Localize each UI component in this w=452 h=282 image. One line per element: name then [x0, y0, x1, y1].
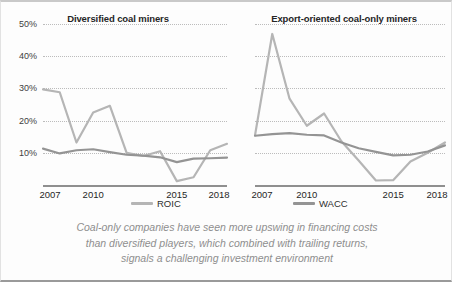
- chart-title-right: Export-oriented coal-only miners: [237, 13, 451, 24]
- chart-caption: Coal-only companies have seen more upswi…: [27, 220, 427, 267]
- y-axis-label-50: 50%: [19, 19, 37, 29]
- caption-line-2: than diversified players, which combined…: [27, 236, 427, 252]
- x-axis-line: [43, 185, 227, 187]
- legend-item-wacc: WACC: [293, 198, 348, 209]
- chart-legend: ROIC WACC: [1, 198, 452, 216]
- y-axis-label-20: 20%: [19, 116, 37, 126]
- chart-title-left: Diversified coal miners: [5, 13, 231, 24]
- series-layer: [43, 24, 227, 185]
- series-line-roic: [43, 89, 227, 181]
- legend-label-wacc: WACC: [319, 198, 348, 209]
- chart-panel-export: Export-oriented coal-only miners 2007201…: [237, 10, 451, 200]
- series-line-roic: [255, 34, 445, 181]
- caption-line-1: Coal-only companies have seen more upswi…: [27, 220, 427, 236]
- legend-item-roic: ROIC: [131, 198, 181, 209]
- legend-swatch-roic: [131, 202, 153, 205]
- y-axis-label-40: 40%: [19, 51, 37, 61]
- x-axis-line: [255, 185, 445, 187]
- series-line-wacc: [43, 149, 227, 163]
- caption-line-3: signals a challenging investment environ…: [27, 251, 427, 267]
- legend-swatch-wacc: [293, 202, 315, 205]
- y-axis-label-10: 10%: [19, 148, 37, 158]
- y-axis-label-30: 30%: [19, 83, 37, 93]
- series-layer: [255, 24, 445, 185]
- plot-area-left: 10%20%30%40%50%2007201020152018: [43, 24, 227, 185]
- legend-label-roic: ROIC: [157, 198, 181, 209]
- chart-panel-diversified: Diversified coal miners 10%20%30%40%50%2…: [5, 10, 231, 200]
- chart-frame: Diversified coal miners 10%20%30%40%50%2…: [0, 0, 452, 282]
- plot-area-right: 2007201020152018: [255, 24, 445, 185]
